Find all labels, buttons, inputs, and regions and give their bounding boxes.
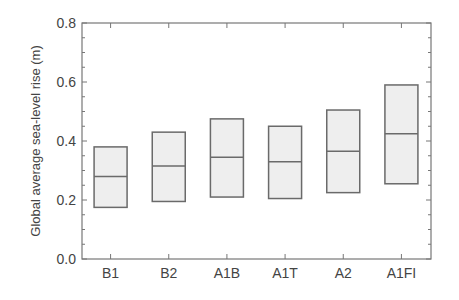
- plot-border: [82, 23, 431, 259]
- box-a1fi: [385, 85, 418, 184]
- x-tick-label-a2: A2: [335, 265, 352, 281]
- x-axis-ticks: B1B2A1BA1TA2A1FI: [102, 23, 416, 281]
- box-b2: [152, 132, 185, 201]
- y-tick-label: 0.0: [57, 251, 77, 267]
- boxes: [94, 85, 418, 207]
- box-a1b: [210, 119, 243, 197]
- x-tick-label-a1b: A1B: [214, 265, 240, 281]
- y-axis-title: Global average sea-level rise (m): [28, 45, 43, 236]
- y-tick-label: 0.6: [57, 74, 77, 90]
- y-tick-label: 0.4: [57, 133, 77, 149]
- x-tick-label-b1: B1: [102, 265, 119, 281]
- y-tick-label: 0.8: [57, 15, 77, 31]
- sea-level-rise-box-chart: 0.00.20.40.60.8 B1B2A1BA1TA2A1FI Global …: [0, 0, 459, 300]
- box-b1: [94, 147, 127, 207]
- x-tick-label-a1t: A1T: [272, 265, 298, 281]
- x-tick-label-a1fi: A1FI: [387, 265, 417, 281]
- y-tick-label: 0.2: [57, 192, 77, 208]
- box-a2: [327, 110, 360, 193]
- box-a1t: [269, 126, 302, 198]
- plot-frame: [82, 23, 431, 259]
- x-tick-label-b2: B2: [160, 265, 177, 281]
